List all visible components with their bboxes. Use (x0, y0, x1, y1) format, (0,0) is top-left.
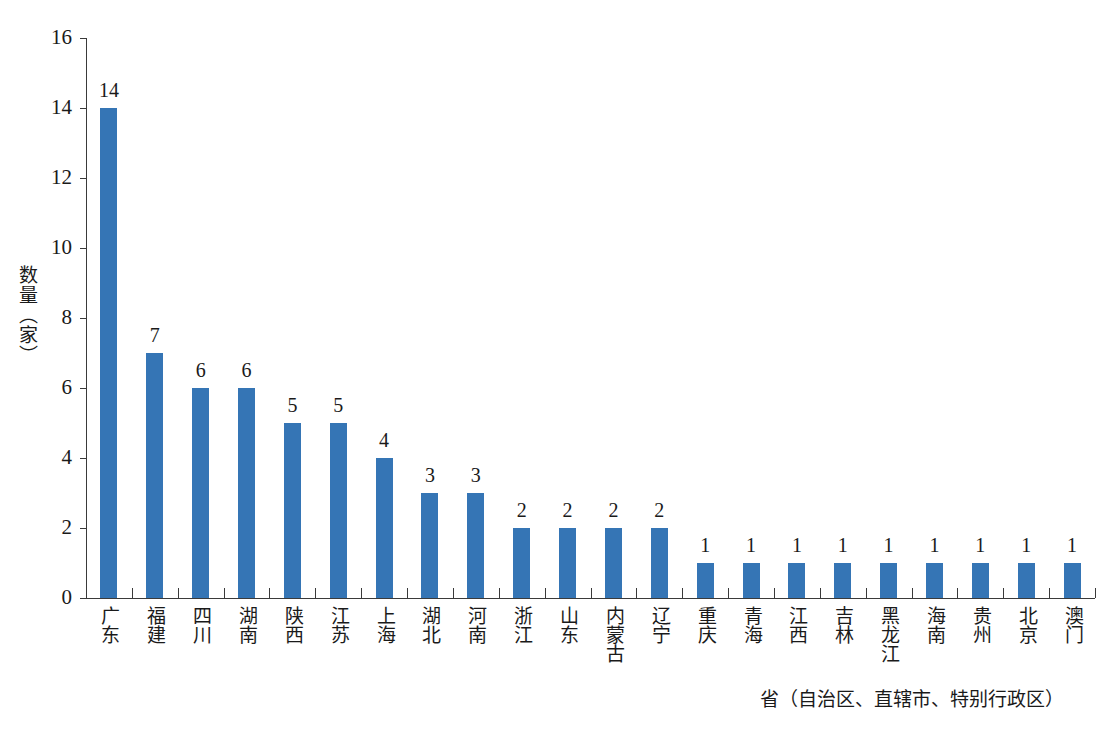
x-axis-category-label: 重庆 (695, 606, 716, 706)
bar-value-label: 2 (543, 500, 593, 520)
bar-value-label: 1 (955, 535, 1005, 555)
bar[interactable] (972, 563, 989, 598)
y-axis-tick-label: 4 (0, 447, 72, 468)
x-axis-tick (728, 588, 729, 598)
x-axis-tick (269, 588, 270, 598)
bar[interactable] (376, 458, 393, 598)
x-axis-tick (453, 588, 454, 598)
x-axis-category-label: 上海 (374, 606, 395, 706)
x-axis-category-label: 澳门 (1062, 606, 1083, 706)
bar-value-label: 1 (818, 535, 868, 555)
bar[interactable] (743, 563, 760, 598)
x-axis-category-label: 山东 (558, 606, 579, 706)
x-axis-category-label: 内蒙古 (603, 606, 624, 706)
bar[interactable] (421, 493, 438, 598)
x-axis-category-label: 湖南 (237, 606, 258, 706)
bar-value-label: 2 (497, 500, 547, 520)
y-axis-tick-label: 16 (0, 27, 72, 48)
x-axis-category-label: 广东 (99, 606, 120, 706)
y-axis-tick (80, 528, 87, 529)
y-axis-tick (80, 388, 87, 389)
x-axis-category-label: 湖北 (420, 606, 441, 706)
x-axis-tick (545, 588, 546, 598)
bar[interactable] (513, 528, 530, 598)
x-axis-tick (774, 588, 775, 598)
bar[interactable] (330, 423, 347, 598)
bar[interactable] (100, 108, 117, 598)
bar[interactable] (238, 388, 255, 598)
x-axis-tick (1049, 588, 1050, 598)
bar-value-label: 2 (634, 500, 684, 520)
x-axis-line (86, 598, 1095, 599)
bar-value-label: 1 (909, 535, 959, 555)
x-axis-category-label: 四川 (191, 606, 212, 706)
y-axis-tick (80, 458, 87, 459)
bar[interactable] (834, 563, 851, 598)
bar-value-label: 1 (772, 535, 822, 555)
bar-value-label: 3 (451, 465, 501, 485)
x-axis-tick (86, 588, 87, 598)
x-axis-tick (499, 588, 500, 598)
x-axis-category-label: 福建 (145, 606, 166, 706)
bar-value-label: 6 (222, 360, 272, 380)
y-axis-tick-label: 8 (0, 307, 72, 328)
y-axis-tick (80, 108, 87, 109)
x-axis-tick (866, 588, 867, 598)
bar[interactable] (926, 563, 943, 598)
bar-value-label: 7 (130, 325, 180, 345)
bar-value-label: 4 (359, 430, 409, 450)
x-axis-category-label: 辽宁 (649, 606, 670, 706)
bar-value-label: 5 (313, 395, 363, 415)
x-axis-tick (361, 588, 362, 598)
x-axis-category-label: 陕西 (282, 606, 303, 706)
x-axis-tick (1095, 588, 1096, 598)
x-axis-tick (682, 588, 683, 598)
bar[interactable] (1018, 563, 1035, 598)
bar[interactable] (605, 528, 622, 598)
y-axis-tick (80, 248, 87, 249)
x-axis-title: 省（自治区、直辖市、特别行政区） (760, 688, 1064, 712)
y-axis-tick-label: 14 (0, 97, 72, 118)
x-axis-category-label: 河南 (466, 606, 487, 706)
bar[interactable] (651, 528, 668, 598)
x-axis-category-label: 浙江 (512, 606, 533, 706)
bar-value-label: 1 (680, 535, 730, 555)
bar-value-label: 5 (267, 395, 317, 415)
bar-chart: 数量（家） 0246810121416 14766554332222111111… (0, 0, 1105, 733)
bar[interactable] (192, 388, 209, 598)
x-axis-tick (912, 588, 913, 598)
bar[interactable] (146, 353, 163, 598)
bar[interactable] (788, 563, 805, 598)
y-axis-tick-label: 6 (0, 377, 72, 398)
x-axis-category-label: 青海 (741, 606, 762, 706)
bar-value-label: 14 (84, 80, 134, 100)
bar[interactable] (284, 423, 301, 598)
x-axis-tick (957, 588, 958, 598)
x-axis-tick (132, 588, 133, 598)
y-axis-tick-label: 10 (0, 237, 72, 258)
bar[interactable] (467, 493, 484, 598)
bar-value-label: 2 (588, 500, 638, 520)
y-axis-tick (80, 178, 87, 179)
x-axis-category-label: 江苏 (328, 606, 349, 706)
bar-value-label: 1 (1001, 535, 1051, 555)
bar-value-label: 1 (864, 535, 914, 555)
bar[interactable] (697, 563, 714, 598)
x-axis-tick (591, 588, 592, 598)
y-axis-tick (80, 38, 87, 39)
bar-value-label: 1 (1047, 535, 1097, 555)
x-axis-tick (820, 588, 821, 598)
y-axis-tick-label: 12 (0, 167, 72, 188)
x-axis-tick (224, 588, 225, 598)
bar-value-label: 3 (405, 465, 455, 485)
y-axis-tick-label: 0 (0, 587, 72, 608)
bar[interactable] (559, 528, 576, 598)
x-axis-tick (178, 588, 179, 598)
bar-value-label: 6 (176, 360, 226, 380)
bar[interactable] (880, 563, 897, 598)
x-axis-tick (407, 588, 408, 598)
x-axis-tick (636, 588, 637, 598)
bar[interactable] (1064, 563, 1081, 598)
y-axis-tick-label: 2 (0, 517, 72, 538)
y-axis-tick (80, 318, 87, 319)
